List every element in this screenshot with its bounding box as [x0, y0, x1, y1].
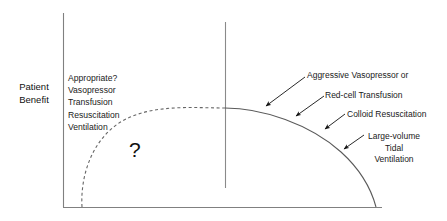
arrow-large-volume-tidal-ventilation: [344, 135, 364, 149]
annotation-red-cell-transfusion: Red-cell Transfusion: [325, 89, 402, 101]
benefit-curve-figure: PatientBenefit Appropriate? Vasopressor …: [0, 0, 447, 221]
question-mark-label: ?: [129, 139, 141, 160]
arrow-aggressive-vasopressor: [266, 77, 305, 106]
y-axis-label-line2: Benefit: [19, 94, 49, 105]
descending-benefit-curve-solid: [225, 108, 376, 207]
annotation-large-volume-tidal-ventilation: Large-volume Tidal Ventilation: [368, 131, 420, 166]
annotation-colloid-resuscitation: Colloid Resuscitation: [347, 108, 426, 120]
arrow-colloid-resuscitation: [325, 114, 345, 129]
left-treatment-list: Appropriate? Vasopressor Transfusion Res…: [68, 72, 120, 133]
y-axis-label-line1: Patient: [19, 81, 49, 92]
annotation-aggressive-vasopressor: Aggressive Vasopressor or: [307, 69, 408, 81]
arrow-red-cell-transfusion: [296, 96, 324, 116]
y-axis-label: PatientBenefit: [10, 81, 58, 106]
